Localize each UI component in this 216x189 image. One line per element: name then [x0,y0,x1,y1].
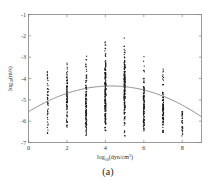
figure-panel: 02468-7-6-5-4-3-2-1 log10(dyn/cm3)log10(… [0,0,216,189]
svg-text:-4: -4 [21,75,26,82]
svg-text:-3: -3 [21,53,26,60]
y-axis-title: log10(m/s) [7,66,15,90]
scatter-plot: 02468-7-6-5-4-3-2-1 log10(dyn/cm3)log10(… [0,0,216,189]
svg-text:-6: -6 [21,117,26,124]
svg-text:-1: -1 [21,11,26,18]
figure-caption: (a) [0,166,216,177]
fit-curve [29,86,202,117]
svg-text:0: 0 [27,144,30,151]
plot-frame [29,15,202,143]
x-axis-title: log10(dyn/cm3) [97,153,133,162]
svg-text:2: 2 [65,144,68,151]
svg-text:-2: -2 [21,32,26,39]
svg-text:-7: -7 [21,139,26,146]
svg-text:6: 6 [142,144,145,151]
svg-text:-5: -5 [21,96,26,103]
data-points [47,38,184,137]
svg-text:4: 4 [104,144,107,151]
svg-text:8: 8 [181,144,184,151]
